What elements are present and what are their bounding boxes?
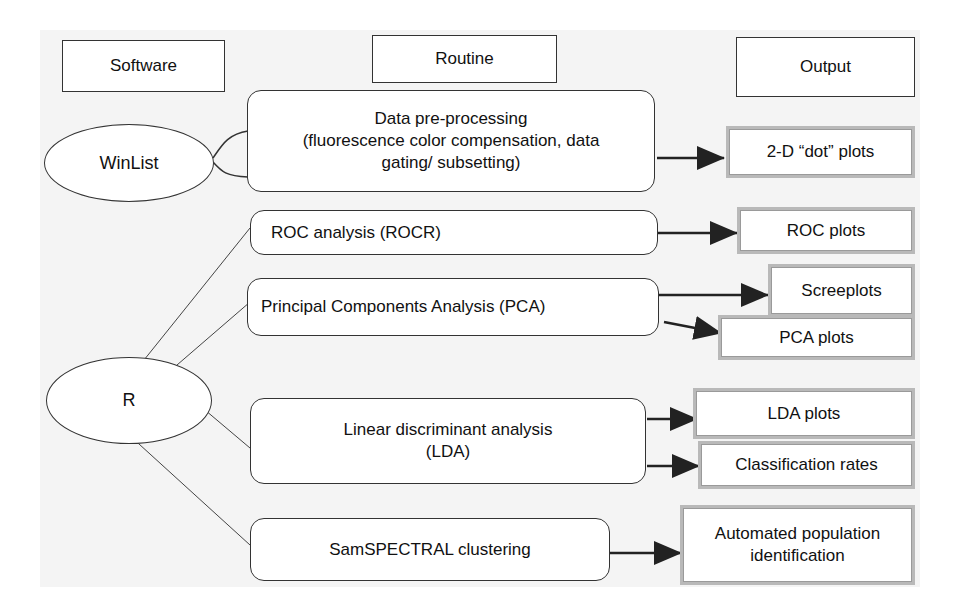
header-output: Output [736,37,915,97]
software-winlist-label: WinList [99,153,158,174]
routine-roc: ROC analysis (ROCR) [250,210,658,255]
routine-preprocessing-line2: (fluorescence color compensation, data [303,130,600,152]
routine-lda-line1: Linear discriminant analysis [344,419,553,441]
output-dot-plots-label: 2-D “dot” plots [767,141,875,163]
output-roc-plots: ROC plots [737,207,915,254]
routine-roc-label: ROC analysis (ROCR) [271,222,441,244]
output-classification-rates: Classification rates [698,441,915,489]
r-to-samspectral-line [128,434,250,545]
output-screeplots: Screeplots [768,264,915,317]
output-screeplots-label: Screeplots [801,280,881,302]
output-pca-plots: PCA plots [718,315,915,360]
routine-preprocessing-line3: gating/ subsetting) [382,152,521,174]
winlist-connector-lower [213,162,248,177]
routine-lda: Linear discriminant analysis (LDA) [250,398,646,484]
output-automated-identification: Automated population identification [680,505,915,585]
header-software: Software [62,40,225,92]
output-roc-plots-label: ROC plots [787,220,865,242]
output-automated-line1: Automated population [715,523,880,545]
output-classification-rates-label: Classification rates [735,454,878,476]
routine-preprocessing-line1: Data pre-processing [374,108,527,130]
arrow-pca-to-pcaplots [664,322,721,333]
header-routine-label: Routine [435,48,494,70]
header-output-label: Output [800,56,851,78]
r-to-roc-line [144,228,250,360]
software-r-label: R [123,390,136,411]
routine-preprocessing: Data pre-processing (fluorescence color … [247,90,655,192]
output-lda-plots-label: LDA plots [768,403,841,425]
output-pca-plots-label: PCA plots [779,327,854,349]
header-software-label: Software [110,55,177,77]
winlist-connector-upper [213,131,248,158]
routine-lda-line2: (LDA) [426,441,470,463]
r-to-pca-line [177,302,250,365]
software-r: R [46,357,212,444]
output-dot-plots: 2-D “dot” plots [726,126,915,178]
software-winlist: WinList [44,124,214,202]
routine-pca: Principal Components Analysis (PCA) [247,278,659,336]
routine-samspectral: SamSPECTRAL clustering [250,518,610,581]
header-routine: Routine [372,35,557,83]
routine-pca-label: Principal Components Analysis (PCA) [261,296,545,318]
r-to-lda-line [205,410,250,448]
output-automated-line2: identification [750,545,845,567]
routine-samspectral-label: SamSPECTRAL clustering [329,539,531,561]
output-lda-plots: LDA plots [693,388,915,439]
